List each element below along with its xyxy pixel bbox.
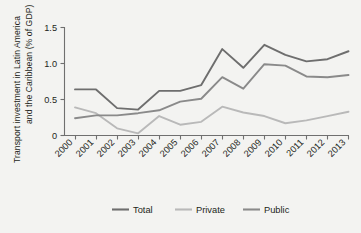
legend-label-public: Public (264, 205, 290, 215)
y-axis-title: Transport investment in Latin America an… (12, 5, 34, 163)
legend-item-total[interactable]: Total (112, 205, 153, 215)
legend-item-public[interactable]: Public (243, 205, 290, 215)
y-tick-label-1.5: 1.5 (44, 23, 57, 33)
x-tick-label-2008: 2008 (221, 137, 243, 159)
x-tick-label-2006: 2006 (179, 137, 201, 159)
chart-figure: Transport investment in Latin America an… (0, 0, 361, 233)
legend: Total Private Public (112, 205, 290, 215)
x-tick-label-2007: 2007 (200, 137, 222, 159)
x-tick-label-2013: 2013 (326, 137, 348, 159)
x-tick-label-2011: 2011 (284, 137, 305, 158)
y-axis-title-line-1: Transport investment in Latin America (12, 16, 22, 163)
series-line-public[interactable] (75, 64, 349, 118)
x-tick-label-2005: 2005 (158, 137, 180, 159)
legend-item-private[interactable]: Private (175, 205, 225, 215)
x-tick-label-2012: 2012 (305, 137, 327, 159)
y-axis-ticks: 1.5 1.0 0.5 0 (44, 23, 64, 141)
x-tick-label-2002: 2002 (95, 137, 117, 159)
x-tick-label-2004: 2004 (137, 137, 159, 159)
series-group (75, 45, 349, 134)
x-tick-label-2009: 2009 (242, 137, 264, 159)
y-tick-label-1.0: 1.0 (44, 59, 57, 69)
y-tick-label-0: 0 (52, 131, 57, 141)
x-axis-ticks: 2000 2001 2002 2003 2004 2005 2006 2007 … (53, 136, 349, 159)
x-tick-label-2003: 2003 (116, 137, 138, 159)
y-tick-label-0.5: 0.5 (44, 95, 57, 105)
series-line-private[interactable] (75, 107, 349, 134)
x-tick-label-2001: 2001 (74, 137, 96, 159)
x-tick-label-2010: 2010 (263, 137, 285, 159)
line-chart: Transport investment in Latin America an… (0, 0, 361, 233)
legend-label-private: Private (196, 205, 225, 215)
legend-label-total: Total (133, 205, 153, 215)
y-axis-title-line-2: and the Caribbean (% of GDP) (24, 5, 34, 124)
